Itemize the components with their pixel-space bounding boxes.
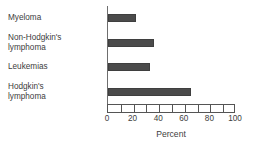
bar-chart-figure: MyelomaNon-Hodgkin's lymphomaLeukemiasHo… xyxy=(0,0,264,148)
tick-label: 40 xyxy=(154,114,163,124)
x-axis-scale-box xyxy=(107,104,235,113)
tick-label: 20 xyxy=(128,114,137,124)
tick-label: 100 xyxy=(228,114,242,124)
category-label: Hodgkin's lymphoma xyxy=(8,82,104,101)
bar xyxy=(108,63,150,71)
axis-tick-divider xyxy=(185,105,186,112)
axis-tick-divider xyxy=(121,105,122,112)
axis-tick-divider xyxy=(210,105,211,112)
axis-tick-divider xyxy=(159,105,160,112)
category-axis-labels: MyelomaNon-Hodgkin's lymphomaLeukemiasHo… xyxy=(0,0,104,104)
x-axis-title: Percent xyxy=(107,129,235,139)
axis-tick-divider xyxy=(223,105,224,112)
category-label: Myeloma xyxy=(8,13,104,23)
tick-label: 0 xyxy=(105,114,110,124)
tick-label: 60 xyxy=(179,114,188,124)
axis-tick-divider xyxy=(146,105,147,112)
bar xyxy=(108,88,191,96)
bar xyxy=(108,39,154,47)
bar xyxy=(108,14,136,22)
axis-tick-divider xyxy=(172,105,173,112)
category-label: Non-Hodgkin's lymphoma xyxy=(8,33,104,52)
axis-tick-divider xyxy=(134,105,135,112)
axis-tick-divider xyxy=(198,105,199,112)
category-label: Leukemias xyxy=(8,62,104,72)
x-axis-tick-labels: 020406080100 xyxy=(107,114,235,126)
tick-label: 80 xyxy=(205,114,214,124)
plot-area xyxy=(107,6,235,104)
